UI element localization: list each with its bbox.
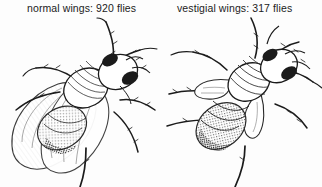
- fly-phenotype-figure: normal wings: 920 flies vestigial wings:…: [0, 0, 322, 187]
- fruit-fly-normal-wings-illustration: [0, 16, 161, 187]
- fruit-fly-vestigial-wings-drawing: [161, 16, 322, 187]
- caption-normal-wings: normal wings: 920 flies: [27, 2, 136, 15]
- fruit-fly-vestigial-wings-illustration: [161, 16, 322, 187]
- fruit-fly-normal-wings-drawing: [0, 16, 161, 187]
- caption-vestigial-wings: vestigial wings: 317 flies: [177, 2, 292, 15]
- fly-legs: [167, 18, 322, 187]
- vestigial-wing-left: [195, 79, 230, 99]
